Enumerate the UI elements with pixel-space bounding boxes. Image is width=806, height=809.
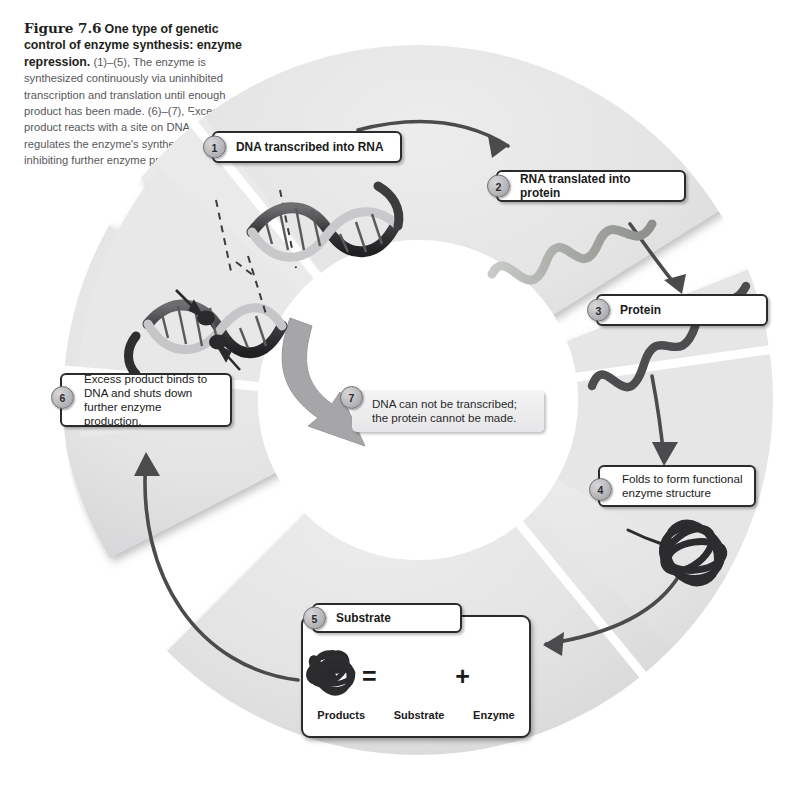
plus-operator: +: [455, 664, 470, 689]
step-7-number: 7: [340, 386, 363, 409]
step-3-label: Protein: [620, 303, 661, 317]
step-4-callout[interactable]: 4 Folds to form functional enzyme struct…: [598, 465, 756, 507]
reaction-panel: = +: [301, 615, 531, 738]
step-1-label: DNA transcribed into RNA: [236, 140, 384, 154]
label-substrate: Substrate: [394, 709, 445, 721]
reaction-equation: = +: [303, 647, 529, 705]
enzyme-knot-icon: [303, 647, 361, 699]
step-4-number: 4: [589, 478, 612, 501]
step-2-label: RNA translated into protein: [520, 172, 674, 200]
step-5-label: Substrate: [336, 611, 391, 625]
step-5-callout[interactable]: 5 Substrate: [312, 603, 462, 633]
step-1-number: 1: [203, 136, 226, 159]
step-6-label: Excess product binds to DNA and shuts do…: [84, 372, 220, 428]
label-products: Products: [317, 709, 365, 721]
step-1-callout[interactable]: 1 DNA transcribed into RNA: [212, 131, 402, 163]
equals-operator: =: [362, 664, 377, 689]
step-2-callout[interactable]: 2 RNA translated into protein: [496, 170, 686, 202]
step-7-callout[interactable]: 7 DNA can not be transcribed; the protei…: [352, 390, 544, 432]
step-6-callout[interactable]: 6 Excess product binds to DNA and shuts …: [60, 373, 232, 427]
step-6-number: 6: [51, 386, 74, 409]
step-2-number: 2: [487, 175, 510, 198]
label-enzyme: Enzyme: [473, 709, 515, 721]
step-4-label: Folds to form functional enzyme structur…: [622, 472, 744, 500]
cycle-diagram: 1 DNA transcribed into RNA 2 RNA transla…: [40, 18, 800, 790]
step-5-number: 5: [303, 607, 326, 630]
figure-page: Figure 7.6 One type of genetic control o…: [0, 0, 806, 809]
step-3-number: 3: [587, 299, 610, 322]
reaction-labels: Products Substrate Enzyme: [303, 709, 529, 721]
step-7-label: DNA can not be transcribed; the protein …: [372, 397, 532, 425]
step-3-callout[interactable]: 3 Protein: [596, 294, 768, 326]
